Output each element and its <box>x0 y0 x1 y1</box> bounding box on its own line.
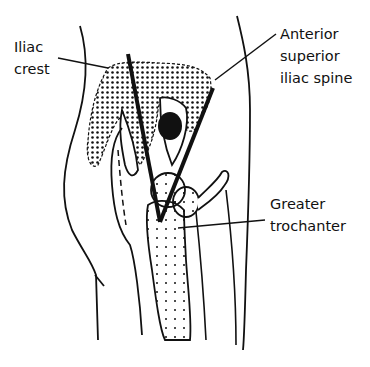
leader-greater-trochanter <box>178 220 265 228</box>
femur-shaft <box>147 201 191 340</box>
leader-asis <box>215 34 276 80</box>
thigh-inner-line <box>196 212 206 340</box>
hip-anatomy-diagram: Iliac crest Anterior superior iliac spin… <box>0 0 370 367</box>
thigh-line-right <box>226 190 236 345</box>
label-greater-trochanter: Greater trochanter <box>270 193 346 237</box>
body-outline-left <box>64 26 98 340</box>
body-outline-right <box>237 16 250 350</box>
iliac-wing <box>87 62 211 166</box>
leader-iliac-crest <box>58 58 108 68</box>
label-anterior-superior-iliac-spine: Anterior superior iliac spine <box>280 23 352 89</box>
pubic-ramus <box>198 171 228 210</box>
label-iliac-crest: Iliac crest <box>14 36 50 80</box>
obturator-dark <box>158 112 182 140</box>
